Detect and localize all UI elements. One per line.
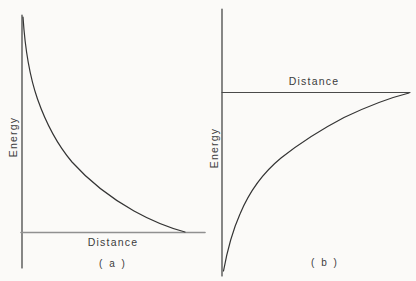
energy-curve-a <box>23 17 185 232</box>
energy-curve-b <box>224 93 410 271</box>
y-axis-label-a: Energy <box>7 117 19 157</box>
panel-caption-a: ( a ) <box>99 258 127 269</box>
y-axis-label-b: Energy <box>208 128 220 168</box>
panel-caption-b: ( b ) <box>311 257 339 268</box>
x-axis-label-a: Distance <box>88 236 138 248</box>
two-panel-energy-distance-figure: Energy Distance ( a ) Energy Distance ( … <box>0 0 416 281</box>
x-axis-label-b: Distance <box>289 75 339 87</box>
